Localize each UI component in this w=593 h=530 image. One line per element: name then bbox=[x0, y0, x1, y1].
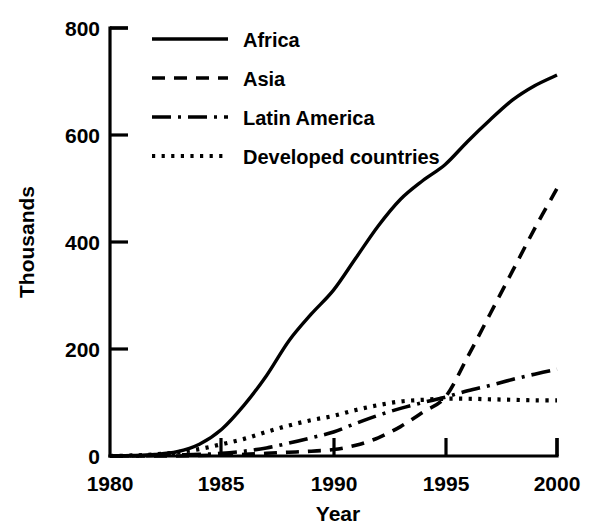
legend-label-asia: Asia bbox=[243, 68, 286, 90]
y-tick-label-400: 400 bbox=[65, 231, 100, 254]
x-tick-label-1985: 1985 bbox=[198, 472, 245, 495]
y-tick-label-600: 600 bbox=[65, 124, 100, 147]
y-axis-title: Thousands bbox=[15, 186, 38, 298]
x-axis-title: Year bbox=[316, 502, 360, 525]
chart-container: 800 600 400 200 0 1980 1985 1990 1995 20… bbox=[0, 0, 593, 530]
series-line-asia bbox=[110, 189, 557, 457]
y-tick-marks bbox=[110, 28, 128, 349]
x-tick-label-1995: 1995 bbox=[423, 472, 470, 495]
x-tick-label-1990: 1990 bbox=[311, 472, 358, 495]
legend-label-africa: Africa bbox=[243, 29, 301, 51]
y-tick-label-0: 0 bbox=[88, 445, 100, 468]
y-tick-label-800: 800 bbox=[65, 17, 100, 40]
line-chart: 800 600 400 200 0 1980 1985 1990 1995 20… bbox=[0, 0, 593, 530]
data-series-group bbox=[110, 75, 557, 456]
legend-label-developed-countries: Developed countries bbox=[243, 146, 440, 168]
legend-item-latin-america: Latin America bbox=[152, 107, 375, 129]
legend-label-latin-america: Latin America bbox=[243, 107, 375, 129]
legend-item-asia: Asia bbox=[152, 68, 286, 90]
legend: Africa Asia Latin America Developed coun… bbox=[152, 29, 440, 168]
legend-item-africa: Africa bbox=[152, 29, 301, 51]
y-tick-label-200: 200 bbox=[65, 338, 100, 361]
legend-item-developed-countries: Developed countries bbox=[152, 146, 440, 168]
x-tick-label-2000: 2000 bbox=[534, 472, 581, 495]
x-tick-label-1980: 1980 bbox=[87, 472, 134, 495]
